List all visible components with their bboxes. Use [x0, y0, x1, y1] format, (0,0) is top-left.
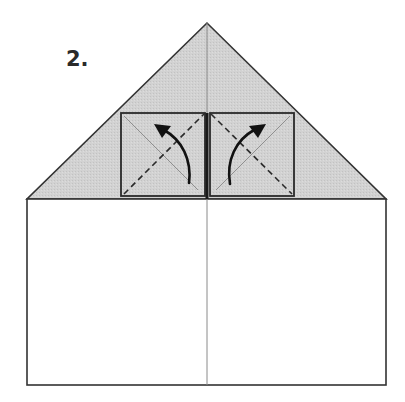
origami-diagram: 2.: [0, 0, 405, 402]
center-divider: [206, 113, 209, 199]
diagram-canvas: [0, 0, 405, 402]
step-number-label: 2.: [66, 47, 89, 71]
